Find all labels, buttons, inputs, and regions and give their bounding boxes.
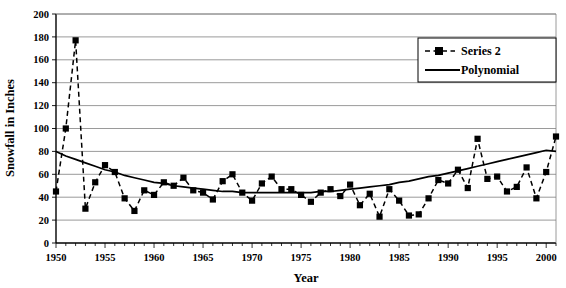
data-point-marker xyxy=(122,195,128,201)
data-point-marker xyxy=(347,182,353,188)
y-axis-title: Snowfall in Inches xyxy=(3,79,17,177)
data-point-marker xyxy=(455,167,461,173)
y-tick-label: 160 xyxy=(33,54,49,65)
data-point-marker xyxy=(112,169,118,175)
data-point-marker xyxy=(200,190,206,196)
data-point-marker xyxy=(494,173,500,179)
data-point-marker xyxy=(151,192,157,198)
data-point-marker xyxy=(92,179,98,185)
data-point-marker xyxy=(278,186,284,192)
data-point-marker xyxy=(239,190,245,196)
data-point-marker xyxy=(465,185,471,191)
data-point-marker xyxy=(73,37,79,43)
y-tick-label: 100 xyxy=(33,123,49,134)
data-point-marker xyxy=(210,196,216,202)
data-point-marker xyxy=(308,199,314,205)
data-point-marker xyxy=(259,180,265,186)
x-tick-label: 1980 xyxy=(340,252,361,263)
y-tick-label: 120 xyxy=(33,100,49,111)
data-point-marker xyxy=(63,125,69,131)
data-point-marker xyxy=(523,164,529,170)
data-point-marker xyxy=(553,133,559,139)
x-axis-minor-ticks xyxy=(56,243,556,248)
x-tick-label: 1950 xyxy=(46,252,67,263)
x-tick-label: 2000 xyxy=(536,252,557,263)
x-tick-label: 1965 xyxy=(193,252,214,263)
x-axis-title: Year xyxy=(294,271,319,285)
x-tick-label: 1985 xyxy=(389,252,410,263)
data-point-marker xyxy=(82,206,88,212)
data-point-marker xyxy=(298,192,304,198)
y-tick-label: 200 xyxy=(33,9,49,20)
data-point-marker xyxy=(337,193,343,199)
data-point-marker xyxy=(386,186,392,192)
data-point-marker xyxy=(367,191,373,197)
x-tick-label: 1975 xyxy=(291,252,312,263)
data-point-marker xyxy=(484,176,490,182)
legend-series-2-marker xyxy=(435,47,443,55)
x-tick-label: 1990 xyxy=(438,252,459,263)
y-tick-label: 140 xyxy=(33,77,49,88)
y-tick-label: 80 xyxy=(39,146,50,157)
data-point-marker xyxy=(288,186,294,192)
data-point-marker xyxy=(514,184,520,190)
data-point-marker xyxy=(357,202,363,208)
y-tick-label: 180 xyxy=(33,32,49,43)
data-point-marker xyxy=(327,186,333,192)
data-point-marker xyxy=(533,195,539,201)
snowfall-line-chart: 020406080100120140160180200 195019551960… xyxy=(0,0,566,288)
data-point-marker xyxy=(220,178,226,184)
legend-label-polynomial: Polynomial xyxy=(461,63,520,77)
data-point-marker xyxy=(416,211,422,217)
x-axis-tick-labels: 1950195519601965197019751980198519901995… xyxy=(46,252,557,263)
data-point-marker xyxy=(131,208,137,214)
x-tick-label: 1995 xyxy=(487,252,508,263)
data-point-marker xyxy=(102,162,108,168)
x-tick-label: 1955 xyxy=(95,252,116,263)
legend-label-series-2: Series 2 xyxy=(461,44,501,58)
y-tick-label: 0 xyxy=(44,238,49,249)
data-point-marker xyxy=(543,169,549,175)
data-point-marker xyxy=(269,173,275,179)
data-point-marker xyxy=(171,183,177,189)
data-point-marker xyxy=(53,188,59,194)
data-point-marker xyxy=(180,175,186,181)
chart-container: 020406080100120140160180200 195019551960… xyxy=(0,0,566,288)
data-point-marker xyxy=(318,190,324,196)
data-point-marker xyxy=(406,212,412,218)
y-tick-label: 60 xyxy=(39,169,50,180)
y-tick-label: 40 xyxy=(39,192,50,203)
data-point-marker xyxy=(504,188,510,194)
data-point-marker xyxy=(249,198,255,204)
y-tick-label: 20 xyxy=(39,215,50,226)
data-point-marker xyxy=(474,136,480,142)
data-point-marker xyxy=(141,187,147,193)
data-point-marker xyxy=(376,214,382,220)
data-point-marker xyxy=(229,171,235,177)
data-point-marker xyxy=(425,195,431,201)
y-axis-tick-labels: 020406080100120140160180200 xyxy=(33,9,49,249)
chart-legend: Series 2 Polynomial xyxy=(418,38,556,82)
x-tick-label: 1960 xyxy=(144,252,165,263)
data-point-marker xyxy=(435,177,441,183)
data-point-marker xyxy=(445,180,451,186)
x-tick-label: 1970 xyxy=(242,252,263,263)
data-point-marker xyxy=(161,179,167,185)
data-point-marker xyxy=(396,198,402,204)
data-point-marker xyxy=(190,187,196,193)
